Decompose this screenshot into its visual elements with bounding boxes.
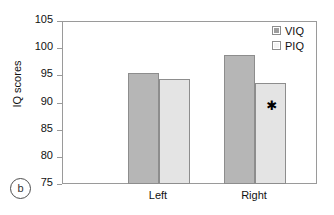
figure-panel-b: b IQ scores 1051009590858075 ✱ LeftRight…: [0, 0, 334, 215]
legend-item-viq: VIQ: [272, 24, 304, 37]
x-tick-label-left: Left: [118, 189, 198, 201]
legend-label-piq: PIQ: [285, 40, 304, 52]
y-axis-title: IQ scores: [11, 41, 23, 127]
legend-label-viq: VIQ: [285, 25, 304, 37]
bar-viq-left: [128, 73, 159, 184]
panel-letter: b: [10, 178, 31, 199]
y-tick-label: 75: [41, 176, 53, 188]
significance-asterisk: ✱: [267, 102, 278, 110]
x-tick-label-right: Right: [214, 189, 294, 201]
legend: VIQ PIQ: [272, 24, 304, 52]
legend-item-piq: PIQ: [272, 39, 304, 52]
y-tick-label: 95: [41, 67, 53, 79]
y-tick-label: 90: [41, 95, 53, 107]
y-tick-label: 80: [41, 149, 53, 161]
viq-swatch-icon: [272, 26, 281, 35]
y-tick-label: 85: [41, 122, 53, 134]
y-tick-mark: [57, 184, 62, 185]
bar-viq-right: [224, 55, 255, 184]
bar-piq-left: [159, 79, 190, 184]
y-tick-label: 100: [35, 40, 53, 52]
piq-swatch-icon: [272, 41, 281, 50]
y-tick-label: 105: [35, 13, 53, 25]
